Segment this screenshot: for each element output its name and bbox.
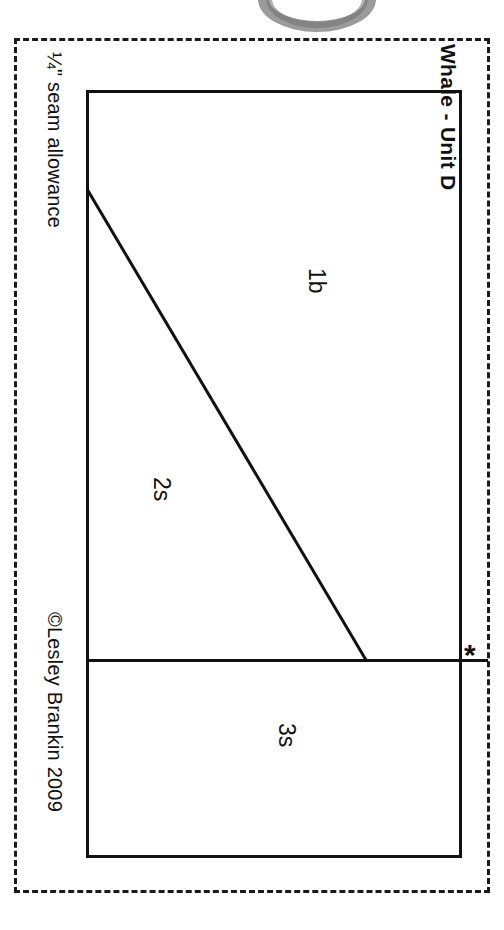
horizontal-seam-line: [86, 659, 488, 662]
piece-label-2s: 2s: [148, 477, 175, 501]
scan-edge: [0, 900, 504, 930]
seam-allowance-note: ¼" seam allowance: [43, 52, 66, 228]
page-title: Whale - Unit D: [436, 44, 460, 191]
piece-label-3s: 3s: [273, 723, 300, 747]
reference-mark-asterisk: *: [464, 640, 476, 670]
copyright-notice: ©Lesley Brankin 2009: [43, 612, 66, 812]
pattern-sheet-page: Whale - Unit D ¼" seam allowance ©Lesley…: [0, 0, 504, 930]
piece-label-1b: 1b: [303, 268, 330, 294]
